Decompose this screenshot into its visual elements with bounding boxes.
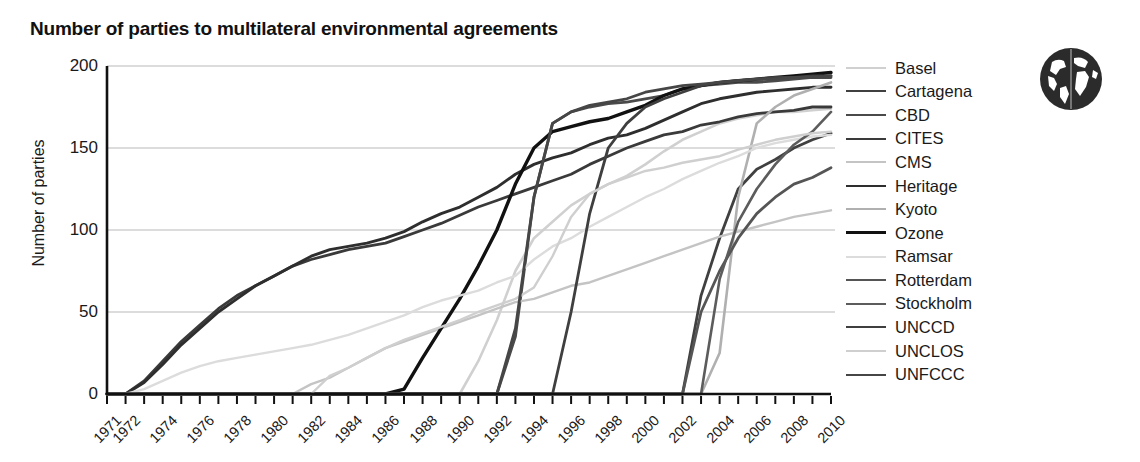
legend-item[interactable]: Basel xyxy=(846,56,1021,80)
legend-item-label: Ramsar xyxy=(895,248,953,265)
legend-item-label: UNCLOS xyxy=(895,343,964,360)
page-title: Number of parties to multilateral enviro… xyxy=(30,18,558,40)
legend-item[interactable]: Cartagena xyxy=(846,80,1021,104)
legend-item[interactable]: Ozone xyxy=(846,221,1021,245)
data-series-group xyxy=(107,73,831,394)
x-tick-label: 1990 xyxy=(433,412,477,456)
legend-item-label: CMS xyxy=(895,154,932,171)
globe-icon xyxy=(1036,44,1106,114)
x-tick-label: 1992 xyxy=(470,412,514,456)
chart-legend: BaselCartagenaCBDCITESCMSHeritageKyotoOz… xyxy=(846,56,1021,386)
legend-line-swatch xyxy=(846,114,886,116)
legend-line-swatch xyxy=(846,161,886,163)
x-tick-label: 2004 xyxy=(693,412,737,456)
legend-item[interactable]: CITES xyxy=(846,127,1021,151)
x-tick-label: 1974 xyxy=(136,412,180,456)
x-tick-label: 1994 xyxy=(507,412,551,456)
legend-item-label: UNFCCC xyxy=(895,366,965,383)
legend-line-swatch xyxy=(846,374,886,376)
legend-item-label: Heritage xyxy=(895,178,957,195)
series-line xyxy=(107,82,831,394)
legend-item[interactable]: Heritage xyxy=(846,174,1021,198)
legend-line-swatch xyxy=(846,350,886,352)
series-line xyxy=(107,107,831,394)
gridlines xyxy=(107,66,835,394)
x-tick-label: 1988 xyxy=(396,412,440,456)
x-axis-tickmarks xyxy=(107,396,831,404)
x-tick-label: 2002 xyxy=(656,412,700,456)
line-chart-svg xyxy=(0,52,850,412)
legend-item-label: Stockholm xyxy=(895,295,972,312)
plot-area: Number of parties xyxy=(0,52,850,412)
legend-item-label: Basel xyxy=(895,60,936,77)
legend-item-label: Ozone xyxy=(895,225,944,242)
x-tick-label: 2006 xyxy=(730,412,774,456)
legend-line-swatch xyxy=(846,303,886,305)
y-axis-title: Number of parties xyxy=(30,108,48,298)
legend-item-label: CBD xyxy=(895,107,930,124)
legend-item[interactable]: Rotterdam xyxy=(846,268,1021,292)
chart-figure: Number of parties to multilateral enviro… xyxy=(0,0,1140,462)
legend-item[interactable]: Ramsar xyxy=(846,245,1021,269)
series-line xyxy=(107,210,831,394)
x-tick-label: 2000 xyxy=(619,412,663,456)
x-axis-labels: 1971197219741976197819801982198419861988… xyxy=(0,404,860,462)
legend-item-label: Kyoto xyxy=(895,201,937,218)
legend-line-swatch xyxy=(846,208,886,210)
legend-line-swatch xyxy=(846,67,886,69)
legend-item[interactable]: UNCCD xyxy=(846,316,1021,340)
legend-item-label: UNCCD xyxy=(895,319,955,336)
x-tick-label: 1996 xyxy=(545,412,589,456)
legend-line-swatch xyxy=(846,326,886,328)
legend-line-swatch xyxy=(846,279,886,281)
legend-line-swatch xyxy=(846,231,886,234)
x-tick-label: 1984 xyxy=(322,412,366,456)
x-tick-label: 1998 xyxy=(582,412,626,456)
series-line xyxy=(107,109,831,394)
x-tick-label: 1976 xyxy=(173,412,217,456)
legend-line-swatch xyxy=(846,138,886,140)
x-tick-label: 1978 xyxy=(210,412,254,456)
x-tick-label: 2010 xyxy=(804,412,848,456)
legend-line-swatch xyxy=(846,185,886,187)
x-tick-label: 1986 xyxy=(359,412,403,456)
series-line xyxy=(107,87,831,394)
legend-item[interactable]: Kyoto xyxy=(846,198,1021,222)
legend-item[interactable]: Stockholm xyxy=(846,292,1021,316)
legend-line-swatch xyxy=(846,90,886,92)
x-tick-label: 1982 xyxy=(285,412,329,456)
legend-item[interactable]: CMS xyxy=(846,150,1021,174)
legend-line-swatch xyxy=(846,256,886,258)
legend-item[interactable]: CBD xyxy=(846,103,1021,127)
x-tick-label: 2008 xyxy=(767,412,811,456)
legend-item-label: Rotterdam xyxy=(895,272,972,289)
legend-item[interactable]: UNCLOS xyxy=(846,339,1021,363)
legend-item-label: Cartagena xyxy=(895,83,972,100)
legend-item[interactable]: UNFCCC xyxy=(846,363,1021,387)
legend-item-label: CITES xyxy=(895,130,944,147)
series-line xyxy=(107,132,831,394)
x-tick-label: 1980 xyxy=(248,412,292,456)
